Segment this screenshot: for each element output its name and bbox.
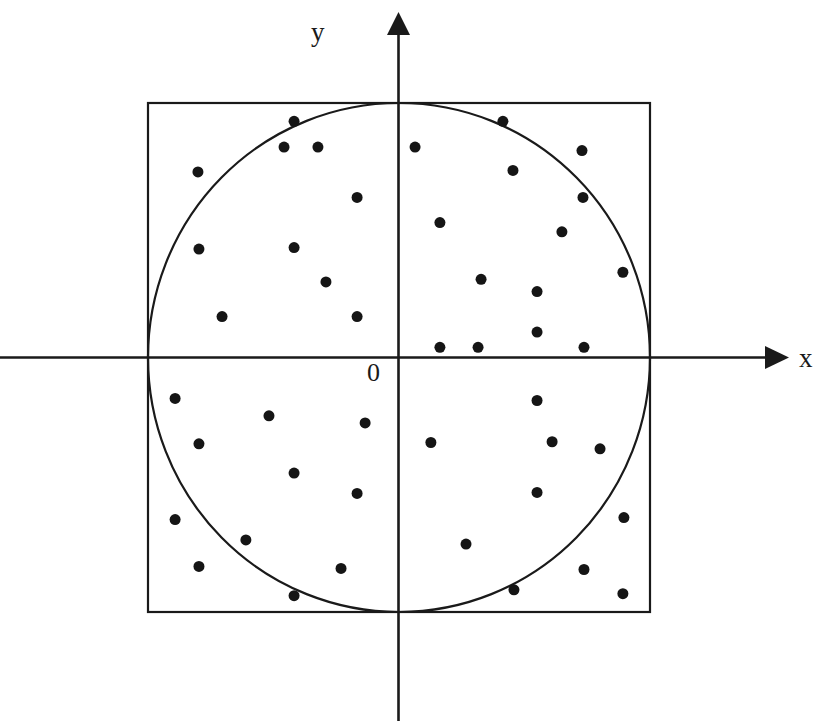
scatter-point — [425, 437, 436, 448]
scatter-point — [289, 590, 300, 601]
scatter-point — [193, 561, 204, 572]
scatter-point — [289, 242, 300, 253]
monte-carlo-figure: y x 0 — [0, 0, 834, 721]
scatter-point — [532, 487, 543, 498]
scatter-point — [410, 142, 421, 153]
scatter-point — [193, 438, 204, 449]
scatter-point — [532, 327, 543, 338]
scatter-point — [556, 226, 567, 237]
scatter-point — [434, 342, 445, 353]
scatter-point — [192, 166, 203, 177]
arrow-up-icon — [387, 12, 410, 35]
scatter-point — [352, 311, 363, 322]
scatter-point — [279, 142, 290, 153]
scatter-point — [532, 395, 543, 406]
scatter-point — [289, 468, 300, 479]
scatter-point — [532, 286, 543, 297]
scatter-point — [576, 145, 587, 156]
horizontal-axis — [0, 346, 789, 369]
scatter-point — [289, 116, 300, 127]
scatter-point — [336, 563, 347, 574]
scatter-point — [217, 311, 228, 322]
scatter-point — [547, 436, 558, 447]
scatter-point — [507, 165, 518, 176]
scatter-point — [508, 584, 519, 595]
scatter-point — [595, 443, 606, 454]
scatter-point — [360, 417, 371, 428]
y-axis-label: y — [311, 19, 325, 46]
vertical-axis — [387, 12, 410, 721]
scatter-point — [578, 564, 589, 575]
scatter-point — [170, 514, 181, 525]
scatter-point — [476, 274, 487, 285]
scatter-point — [461, 539, 472, 550]
scatter-point — [577, 192, 588, 203]
scatter-point — [240, 534, 251, 545]
scatter-point — [617, 267, 628, 278]
scatter-point — [497, 116, 508, 127]
x-axis-label: x — [799, 345, 813, 372]
scatter-point — [312, 142, 323, 153]
arrow-right-icon — [765, 346, 789, 369]
scatter-point — [473, 342, 484, 353]
scatter-point — [578, 342, 589, 353]
figure-canvas — [0, 0, 834, 721]
scatter-point — [170, 393, 181, 404]
scatter-point — [193, 244, 204, 255]
scatter-point — [320, 276, 331, 287]
scatter-point — [617, 588, 628, 599]
scatter-point — [263, 410, 274, 421]
scatter-point — [434, 217, 445, 228]
scatter-point — [352, 192, 363, 203]
scatter-point — [618, 512, 629, 523]
origin-label: 0 — [367, 360, 380, 386]
scatter-point — [352, 488, 363, 499]
